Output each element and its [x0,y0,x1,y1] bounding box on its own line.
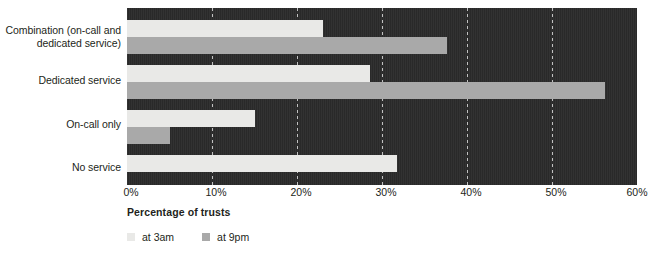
category-label-combination: Combination (on-call and dedicated servi… [0,24,121,49]
bar-combination-3am [127,20,323,37]
bar-chart: Combination (on-call and dedicated servi… [0,0,649,267]
category-label-no-service: No service [0,161,121,174]
bar-no-service-3am [127,155,397,172]
category-label-dedicated-service: Dedicated service [0,74,121,87]
bar-on-call-only-9pm [127,127,170,144]
x-axis-tick-labels: 0% 10% 20% 30% 40% 50% 60% [0,186,649,204]
bar-dedicated-service-3am [127,65,370,82]
legend-item-at-3am: at 3am [127,231,174,244]
legend-item-at-9pm: at 9pm [202,231,249,244]
legend-label-at-3am: at 3am [142,231,174,244]
xtick-30: 30% [375,186,396,199]
xtick-40: 40% [460,186,481,199]
legend-swatch-at-9pm [202,233,210,241]
bar-combination-9pm [127,37,447,54]
legend-swatch-at-3am [127,233,135,241]
bar-dedicated-service-9pm [127,82,605,99]
category-label-on-call-only: On-call only [0,118,121,131]
xtick-20: 20% [290,186,311,199]
xtick-60: 60% [626,186,647,199]
chart-legend: at 3am at 9pm [127,229,277,245]
plot-area [127,8,637,185]
legend-label-at-9pm: at 9pm [217,231,249,244]
xtick-50: 50% [545,186,566,199]
xtick-10: 10% [205,186,226,199]
category-axis-labels: Combination (on-call and dedicated servi… [0,8,121,185]
x-axis-title: Percentage of trusts [127,206,231,218]
bar-on-call-only-3am [127,110,255,127]
xtick-0: 0% [123,186,138,199]
